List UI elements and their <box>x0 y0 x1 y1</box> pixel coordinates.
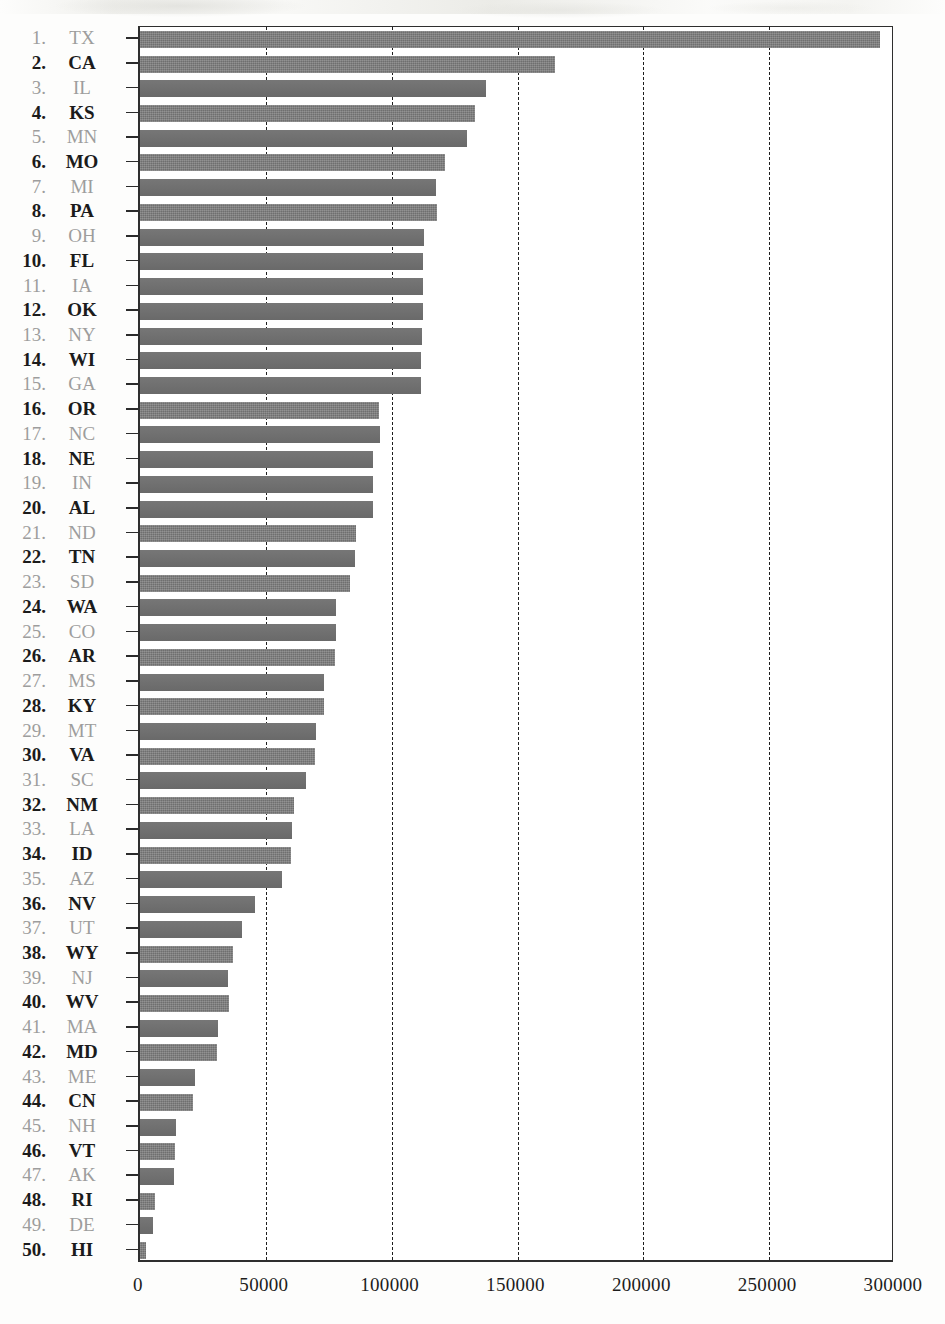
y-tick-VA <box>126 754 138 756</box>
bar-GA <box>140 377 421 394</box>
y-tick-TN <box>126 556 138 558</box>
y-tick-AR <box>126 655 138 657</box>
category-label-OK: 12.OK <box>0 298 120 322</box>
bar-PA <box>140 204 437 221</box>
bar-IL <box>140 80 486 97</box>
bar-TN <box>140 550 355 567</box>
state-abbreviation: DE <box>50 1213 114 1237</box>
state-abbreviation: VT <box>50 1139 114 1163</box>
bar-WI <box>140 352 421 369</box>
rank-number: 24. <box>0 595 50 619</box>
bar-NV <box>140 896 255 913</box>
rank-number: 36. <box>0 892 50 916</box>
state-abbreviation: NM <box>50 793 114 817</box>
state-abbreviation: AL <box>50 496 114 520</box>
y-tick-IN <box>126 482 138 484</box>
category-label-AR: 26.AR <box>0 644 120 668</box>
bar-MN <box>140 130 467 147</box>
rank-number: 28. <box>0 694 50 718</box>
state-abbreviation: WI <box>50 348 114 372</box>
state-abbreviation: OH <box>50 224 114 248</box>
state-abbreviation: MS <box>50 669 114 693</box>
gridline-200000 <box>643 27 644 1260</box>
state-abbreviation: VA <box>50 743 114 767</box>
rank-number: 2. <box>0 51 50 75</box>
rank-number: 35. <box>0 867 50 891</box>
state-abbreviation: OR <box>50 397 114 421</box>
y-tick-MS <box>126 680 138 682</box>
rank-number: 26. <box>0 644 50 668</box>
state-abbreviation: AR <box>50 644 114 668</box>
category-label-MN: 5.MN <box>0 125 120 149</box>
rank-number: 8. <box>0 199 50 223</box>
category-label-ME: 43.ME <box>0 1065 120 1089</box>
rank-number: 4. <box>0 101 50 125</box>
y-tick-NC <box>126 433 138 435</box>
x-tick-label-100000: 100000 <box>360 1274 419 1296</box>
x-tick-label-150000: 150000 <box>486 1274 545 1296</box>
category-label-VA: 30.VA <box>0 743 120 767</box>
rank-number: 38. <box>0 941 50 965</box>
category-label-OH: 9.OH <box>0 224 120 248</box>
y-tick-WV <box>126 1001 138 1003</box>
y-tick-KS <box>126 112 138 114</box>
bar-MI <box>140 179 436 196</box>
bar-AK <box>140 1168 174 1185</box>
category-label-NJ: 39.NJ <box>0 966 120 990</box>
y-tick-IL <box>126 87 138 89</box>
x-tick-label-0: 0 <box>133 1274 143 1296</box>
bar-OK <box>140 303 423 320</box>
y-tick-MT <box>126 730 138 732</box>
rank-number: 16. <box>0 397 50 421</box>
y-tick-ME <box>126 1076 138 1078</box>
category-label-IN: 19.IN <box>0 471 120 495</box>
category-label-SC: 31.SC <box>0 768 120 792</box>
bar-NH <box>140 1119 176 1136</box>
y-tick-AL <box>126 507 138 509</box>
category-label-WA: 24.WA <box>0 595 120 619</box>
state-abbreviation: MD <box>50 1040 114 1064</box>
state-abbreviation: HI <box>50 1238 114 1262</box>
gridline-150000 <box>518 27 519 1260</box>
state-abbreviation: LA <box>50 817 114 841</box>
category-label-NH: 45.NH <box>0 1114 120 1138</box>
y-tick-VT <box>126 1150 138 1152</box>
rank-number: 12. <box>0 298 50 322</box>
rank-number: 13. <box>0 323 50 347</box>
rank-number: 32. <box>0 793 50 817</box>
rank-number: 15. <box>0 372 50 396</box>
category-label-UT: 37.UT <box>0 916 120 940</box>
category-label-KS: 4.KS <box>0 101 120 125</box>
state-abbreviation: IL <box>50 76 114 100</box>
y-tick-MD <box>126 1051 138 1053</box>
rank-number: 41. <box>0 1015 50 1039</box>
category-label-column: 1.TX2.CA3.IL4.KS5.MN6.MO7.MI8.PA9.OH10.F… <box>0 0 138 1262</box>
category-label-VT: 46.VT <box>0 1139 120 1163</box>
bar-SD <box>140 575 350 592</box>
rank-number: 18. <box>0 447 50 471</box>
state-abbreviation: NY <box>50 323 114 347</box>
category-label-TN: 22.TN <box>0 545 120 569</box>
y-tick-LA <box>126 828 138 830</box>
bar-KS <box>140 105 475 122</box>
scan-artifact-band <box>0 0 945 14</box>
y-tick-UT <box>126 927 138 929</box>
category-label-MO: 6.MO <box>0 150 120 174</box>
state-abbreviation: RI <box>50 1188 114 1212</box>
category-label-HI: 50.HI <box>0 1238 120 1262</box>
category-label-CO: 25.CO <box>0 620 120 644</box>
category-label-MI: 7.MI <box>0 175 120 199</box>
state-abbreviation: ME <box>50 1065 114 1089</box>
state-abbreviation: MA <box>50 1015 114 1039</box>
state-abbreviation: ND <box>50 521 114 545</box>
x-axis: 050000100000150000200000250000300000 <box>0 1262 945 1306</box>
bar-CO <box>140 624 336 641</box>
rank-number: 47. <box>0 1163 50 1187</box>
rank-number: 27. <box>0 669 50 693</box>
y-tick-NE <box>126 458 138 460</box>
category-label-NV: 36.NV <box>0 892 120 916</box>
x-tick-label-50000: 50000 <box>239 1274 288 1296</box>
y-tick-KY <box>126 705 138 707</box>
bar-IN <box>140 476 373 493</box>
state-abbreviation: GA <box>50 372 114 396</box>
